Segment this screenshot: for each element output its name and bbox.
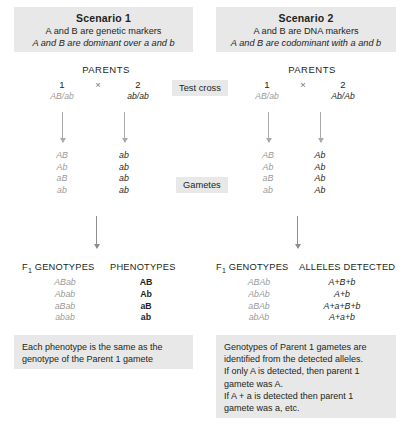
list-item: A+B+b (302, 277, 382, 289)
scenario2-alleles-detected-header: ALLELES DETECTED (299, 262, 395, 272)
scenario1-f1-genotypes-header: F1 GENOTYPES (22, 262, 94, 274)
scenario2-parents-label: PARENTS (262, 64, 362, 75)
note-line: Each phenotype is the same as the (22, 341, 185, 353)
scenario1-parent2-genotype: ab/ab (118, 91, 158, 101)
list-item: abab (30, 312, 100, 324)
scenario1-parent1-genotype: AB/ab (42, 91, 82, 101)
list-item: aB (44, 173, 80, 185)
gametes-label-box: Gametes (176, 177, 228, 193)
note-line: genotype of the Parent 1 gamete (22, 353, 185, 365)
list-item: aB (115, 301, 177, 313)
scenario2-description-line1: A and B are DNA markers (216, 26, 396, 38)
list-item: aBab (30, 301, 100, 313)
list-item: Ab (302, 173, 338, 185)
scenario1-f1-genotypes-list: ABab Abab aBab abab (30, 277, 100, 324)
scenario1-parent2-number: 2 (126, 79, 150, 90)
scenario2-parent1-gamete-arrow (268, 112, 269, 142)
scenario2-parent2-number: 2 (331, 79, 355, 90)
scenario2-parent1-number: 1 (255, 79, 279, 90)
scenario2-note-box: Genotypes of Parent 1 gametes are identi… (216, 335, 396, 418)
scenario2-f1-genotypes-header: F1 GENOTYPES (216, 262, 288, 274)
scenario1-parents-label: PARENTS (56, 64, 156, 75)
scenario2-header-box: Scenario 2 A and B are DNA markers A and… (216, 7, 396, 52)
list-item: ab (106, 173, 142, 185)
scenario1-title: Scenario 1 (14, 12, 193, 24)
scenario1-parent1-number: 1 (50, 79, 74, 90)
test-cross-label-box: Test cross (172, 80, 228, 96)
scenario2-parent1-genotype: AB/ab (247, 91, 287, 101)
list-item: ab (44, 185, 80, 197)
scenario1-gametes-parent1-list: AB Ab aB ab (44, 150, 80, 196)
scenario1-gametes-to-f1-arrow (96, 216, 97, 248)
list-item: AB (250, 150, 286, 162)
list-item: AB (44, 150, 80, 162)
scenario2-gametes-to-f1-arrow (297, 216, 298, 248)
list-item: ABab (30, 277, 100, 289)
scenario1-parent2-gamete-arrow (124, 112, 125, 142)
list-item: A+b (302, 289, 382, 301)
scenario1-description-line2: A and B are dominant over a and b (14, 38, 193, 50)
scenario2-cross-symbol: × (293, 79, 313, 90)
list-item: Ab (302, 185, 338, 197)
scenario2-alleles-detected-list: A+B+b A+b A+a+B+b A+a+b (302, 277, 382, 324)
list-item: Abab (30, 289, 100, 301)
scenario1-gametes-parent2-list: ab ab ab ab (106, 150, 142, 196)
note-line: identified from the detected alleles. (224, 353, 388, 365)
list-item: ab (115, 312, 177, 324)
note-line: If A + a is detected then parent 1 (224, 390, 388, 402)
note-line: If only A is detected, then parent 1 (224, 365, 388, 377)
scenario1-header-box: Scenario 1 A and B are genetic markers A… (14, 7, 193, 52)
note-line: gamete was a, etc. (224, 402, 388, 414)
list-item: ab (106, 150, 142, 162)
scenario2-parent2-gamete-arrow (320, 112, 321, 142)
list-item: Ab (44, 162, 80, 174)
scenario1-description-line1: A and B are genetic markers (14, 26, 193, 38)
note-line: gamete was A. (224, 378, 388, 390)
scenario2-gametes-parent1-list: AB Ab aB ab (250, 150, 286, 196)
scenario2-parent2-genotype: Ab/Ab (322, 91, 364, 101)
list-item: Ab (302, 150, 338, 162)
scenario1-phenotypes-list: AB Ab aB ab (115, 277, 177, 324)
list-item: abAb (226, 312, 292, 324)
list-item: aB (250, 173, 286, 185)
list-item: A+a+b (302, 312, 382, 324)
list-item: AB (115, 277, 177, 289)
scenario2-title: Scenario 2 (216, 12, 396, 24)
list-item: ab (106, 185, 142, 197)
scenario1-cross-symbol: × (88, 79, 108, 90)
f1-header-text: F1 GENOTYPES (22, 262, 94, 272)
list-item: A+a+B+b (302, 301, 382, 313)
list-item: ab (250, 185, 286, 197)
scenario2-description-line2: A and B are codominant with a and b (216, 38, 396, 50)
note-line: Genotypes of Parent 1 gametes are (224, 341, 388, 353)
list-item: ABAb (226, 277, 292, 289)
list-item: ab (106, 162, 142, 174)
list-item: aBAb (226, 301, 292, 313)
scenario1-note-box: Each phenotype is the same as the genoty… (14, 335, 193, 369)
scenario2-gametes-parent2-list: Ab Ab Ab Ab (302, 150, 338, 196)
scenario1-parent1-gamete-arrow (62, 112, 63, 142)
list-item: Ab (250, 162, 286, 174)
scenario1-phenotypes-header: PHENOTYPES (110, 262, 176, 272)
scenario2-f1-genotypes-list: ABAb AbAb aBAb abAb (226, 277, 292, 324)
list-item: Ab (115, 289, 177, 301)
list-item: Ab (302, 162, 338, 174)
list-item: AbAb (226, 289, 292, 301)
